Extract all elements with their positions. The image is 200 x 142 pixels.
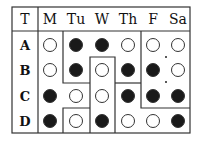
filled-circle-icon	[44, 90, 57, 103]
empty-circle-icon	[70, 90, 83, 103]
filled-circle-icon	[70, 39, 83, 52]
filled-circle-icon	[96, 39, 109, 52]
header-col-sa: Sa	[169, 11, 187, 27]
filled-circle-icon	[172, 115, 185, 128]
row-labels: A B C D	[19, 38, 31, 129]
filled-circle-icon	[122, 64, 135, 77]
empty-circle-icon	[44, 64, 57, 77]
filled-circle-icon	[122, 90, 135, 103]
row-label-d: D	[19, 114, 30, 129]
filled-circle-icon	[70, 64, 83, 77]
row-label-c: C	[20, 89, 30, 104]
header-col-tu: Tu	[67, 11, 85, 27]
row-label-a: A	[19, 38, 31, 53]
filled-circle-icon	[172, 90, 185, 103]
empty-circle-icon	[70, 115, 83, 128]
filled-circle-icon	[147, 90, 160, 103]
header-row: T M Tu W Th F Sa	[20, 11, 187, 27]
empty-circle-icon	[122, 39, 135, 52]
header-col-m: M	[43, 11, 57, 27]
filled-circle-icon	[96, 115, 109, 128]
empty-circle-icon	[172, 64, 185, 77]
filled-circle-icon	[147, 64, 160, 77]
header-col-th: Th	[119, 11, 137, 27]
header-corner: T	[20, 11, 30, 27]
empty-circle-icon	[122, 115, 135, 128]
filled-circle-icon	[44, 115, 57, 128]
grid-diagram: T M Tu W Th F Sa A B C D	[0, 0, 200, 142]
header-col-f: F	[148, 11, 158, 27]
empty-circle-icon	[96, 90, 109, 103]
empty-circle-icon	[172, 39, 185, 52]
row-label-b: B	[20, 63, 31, 78]
empty-circle-icon	[147, 39, 160, 52]
empty-circle-icon	[96, 64, 109, 77]
small-dot	[165, 56, 167, 58]
header-col-w: W	[95, 11, 110, 27]
empty-circle-icon	[147, 115, 160, 128]
empty-circle-icon	[44, 39, 57, 52]
small-dot	[165, 81, 167, 83]
